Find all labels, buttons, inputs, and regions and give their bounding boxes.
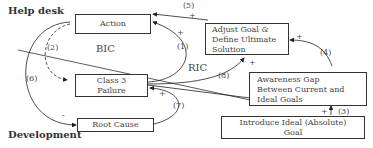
link-label-8: (8)	[218, 71, 229, 80]
node-awareness-line1: Awareness Gap	[257, 75, 366, 85]
sign-plus-7: +	[159, 89, 166, 98]
node-introduce-line2: Goal	[222, 128, 364, 138]
node-awareness-line2: Between Current and	[257, 85, 366, 95]
node-class3-line1: Class 3	[76, 76, 147, 86]
region-development: Development	[8, 129, 82, 140]
sign-plus-3: +	[321, 107, 328, 116]
loop-bic: BIC	[96, 43, 115, 54]
node-awareness-line3: Ideal Goals	[257, 95, 366, 105]
sign-plus-ric: +	[249, 58, 256, 67]
node-introduce-ideal: Introduce Ideal (Absolute)Goal	[221, 116, 365, 139]
link-label-1: (1)	[177, 42, 188, 51]
node-awareness-gap: Awareness GapBetween Current andIdeal Go…	[249, 72, 367, 106]
link-label-6: (6)	[26, 74, 37, 83]
link-label-2: (2)	[47, 43, 58, 52]
link-5	[153, 14, 208, 20]
link-label-7: (7)	[173, 101, 184, 110]
sign-plus-5: +	[189, 11, 196, 20]
node-action-label: Action	[100, 19, 126, 28]
link-label-5: (5)	[183, 1, 194, 10]
loop-ric: RIC	[188, 62, 207, 73]
link-2	[45, 24, 70, 80]
node-class3-line2: Failure	[76, 86, 147, 96]
node-action: Action	[75, 14, 151, 34]
sign-minus-6: -	[62, 111, 65, 120]
sign-plus-1: +	[177, 28, 184, 37]
node-adjust-line3: Solution	[212, 45, 288, 55]
region-help-desk: Help desk	[8, 5, 64, 16]
node-root-cause-label: Root Cause	[92, 120, 138, 129]
link-label-4: (4)	[320, 48, 331, 57]
node-adjust-goal: Adjust Goal &Define UltimateSolution	[205, 23, 289, 55]
node-introduce-line1: Introduce Ideal (Absolute)	[222, 118, 364, 128]
node-adjust-line2: Define Ultimate	[212, 35, 288, 45]
node-adjust-line1: Adjust Goal &	[212, 25, 288, 35]
link-label-3: (3)	[338, 107, 349, 116]
node-root-cause: Root Cause	[77, 118, 154, 132]
node-class3-failure: Class 3Failure	[75, 74, 148, 97]
sign-plus-4: +	[296, 32, 303, 41]
